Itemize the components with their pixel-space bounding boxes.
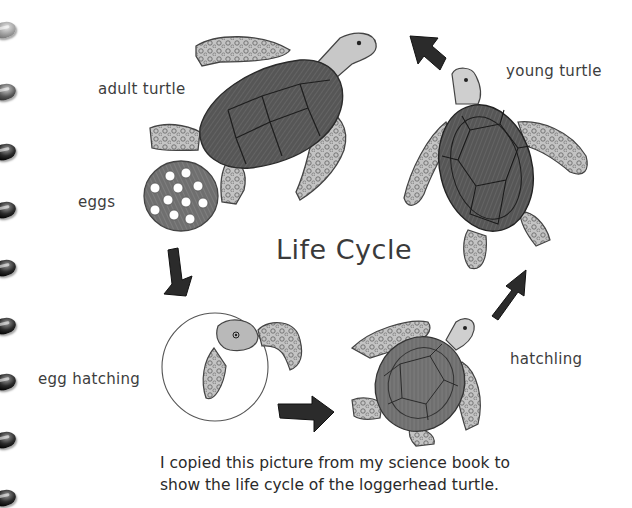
page-title: Life Cycle [276, 234, 412, 265]
arrow-up-right-icon [492, 270, 526, 320]
caption: I copied this picture from my science bo… [160, 452, 510, 496]
caption-line-2: show the life cycle of the loggerhead tu… [160, 474, 510, 496]
arrow-up-left-icon [410, 36, 446, 70]
stage-label-hatchling: hatchling [510, 350, 582, 368]
stage-label-adult-turtle: adult turtle [98, 80, 185, 98]
young-turtle-drawing [404, 68, 587, 268]
caption-line-1: I copied this picture from my science bo… [160, 452, 510, 474]
hatchling-turtle-drawing [352, 319, 480, 446]
stage-label-egg-hatching: egg hatching [38, 370, 140, 388]
egg-cluster-drawing [144, 161, 218, 231]
arrow-down-icon [164, 248, 192, 296]
stage-label-young-turtle: young turtle [506, 62, 602, 80]
stage-label-eggs: eggs [78, 193, 115, 211]
arrow-right-icon [278, 396, 334, 432]
